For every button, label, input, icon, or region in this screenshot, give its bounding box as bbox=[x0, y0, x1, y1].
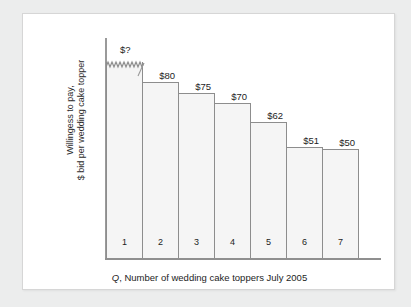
bar-slot-4: $70 4 bbox=[214, 103, 251, 258]
bar-value-label-7: $50 bbox=[339, 137, 355, 148]
bar-value-label-3: $75 bbox=[195, 81, 211, 92]
bar-5[interactable]: $62 5 bbox=[250, 122, 287, 258]
axis-break-slash-icon bbox=[137, 63, 144, 74]
bar-1[interactable]: $? 1 bbox=[106, 62, 143, 258]
bar-2[interactable]: $80 2 bbox=[142, 82, 179, 258]
bar-series: $? 1 $80 2 $75 3 $70 bbox=[106, 39, 366, 258]
x-axis-label: Q, Number of wedding cake toppers July 2… bbox=[23, 272, 396, 283]
y-axis-label: Willingess to pay, $ bid per wedding cak… bbox=[59, 32, 93, 208]
bar-category-label-7: 7 bbox=[338, 237, 343, 247]
bar-value-label-2: $80 bbox=[159, 70, 175, 81]
plot-area: $? 1 $80 2 $75 3 $70 bbox=[105, 38, 381, 260]
bar-category-label-6: 6 bbox=[302, 237, 307, 247]
y-axis-label-line1: Willingess to pay, bbox=[65, 85, 76, 154]
bar-category-label-5: 5 bbox=[266, 237, 271, 247]
bar-category-label-4: 4 bbox=[230, 237, 235, 247]
bar-slot-2: $80 2 bbox=[142, 82, 179, 258]
bar-slot-3: $75 3 bbox=[178, 93, 215, 258]
bar-value-label-6: $51 bbox=[303, 135, 319, 146]
bar-7[interactable]: $50 7 bbox=[322, 149, 359, 258]
figure-frame: Willingess to pay, $ bid per wedding cak… bbox=[22, 13, 395, 290]
bar-4[interactable]: $70 4 bbox=[214, 103, 251, 258]
bar-category-label-3: 3 bbox=[194, 237, 199, 247]
x-axis-line bbox=[105, 258, 381, 260]
bar-value-label-5: $62 bbox=[267, 110, 283, 121]
bar-slot-7: $50 7 bbox=[322, 149, 359, 258]
bar-category-label-1: 1 bbox=[122, 237, 127, 247]
y-axis-label-line2: $ bid per wedding cake topper bbox=[76, 60, 87, 181]
bar-value-label-4: $70 bbox=[231, 91, 247, 102]
bar-slot-1: $? 1 bbox=[106, 62, 143, 258]
x-axis-label-text: , Number of wedding cake toppers July 20… bbox=[119, 272, 307, 283]
bar-6[interactable]: $51 6 bbox=[286, 147, 323, 258]
bar-slot-6: $51 6 bbox=[286, 147, 323, 258]
bar-category-label-2: 2 bbox=[158, 237, 163, 247]
bar-3[interactable]: $75 3 bbox=[178, 93, 215, 258]
bar-value-label-1: $? bbox=[120, 44, 131, 55]
bar-slot-5: $62 5 bbox=[250, 122, 287, 258]
